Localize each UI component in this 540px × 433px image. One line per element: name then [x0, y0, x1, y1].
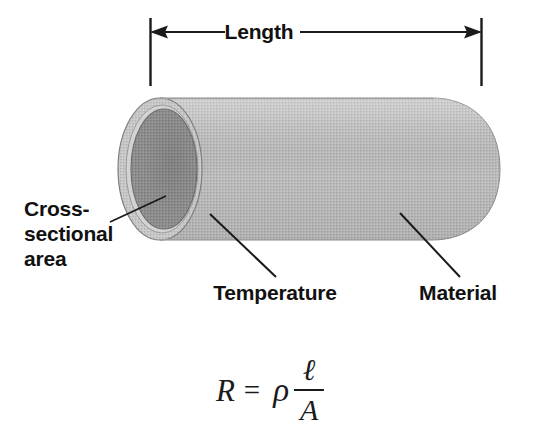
length-label: Length — [225, 20, 294, 44]
cylinder-body-shading — [160, 98, 500, 240]
equation-variable-r: R — [216, 375, 235, 406]
cross-sectional-area-label-line1: Cross- — [24, 197, 89, 220]
equation-numerator-length: ℓ — [303, 355, 316, 387]
resistance-equation: R = ρ ℓ A — [216, 352, 324, 428]
equation-fraction-bar — [294, 389, 324, 391]
length-dimension — [150, 18, 482, 86]
equation-fraction: ℓ A — [294, 355, 324, 425]
cylinder — [118, 98, 500, 240]
cross-sectional-area-label-line3: area — [24, 247, 66, 270]
cross-sectional-area-shading — [131, 109, 197, 229]
temperature-label: Temperature — [213, 281, 336, 305]
equation-equals-sign: = — [244, 376, 260, 405]
cross-sectional-area-label: Cross-sectionalarea — [24, 196, 113, 271]
material-label: Material — [419, 281, 497, 305]
cross-sectional-area-label-line2: sectional — [24, 222, 113, 245]
equation-rho-symbol: ρ — [273, 374, 289, 407]
equation-denominator-area: A — [300, 393, 318, 425]
